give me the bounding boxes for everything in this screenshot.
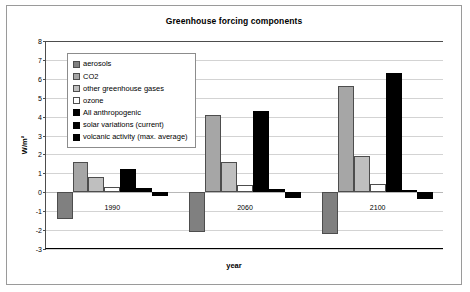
legend-swatch-icon <box>73 73 80 80</box>
gridline-8 <box>46 41 443 42</box>
bar <box>322 192 338 234</box>
y-tick-label: 6 <box>38 75 42 82</box>
legend-swatch-icon <box>73 85 80 92</box>
legend-label: CO2 <box>83 73 98 81</box>
legend-label: solar variations (current) <box>83 121 164 129</box>
y-tick-mark <box>43 98 46 99</box>
y-tick-label: -3 <box>36 246 42 253</box>
legend-item[interactable]: ozone <box>73 95 188 107</box>
bar <box>269 189 285 192</box>
plot-wrapper: -3-2-1012345678 199020602100 aerosolsCO2… <box>45 41 443 249</box>
bar <box>221 162 237 192</box>
legend-item[interactable]: All anthropogenic <box>73 107 188 119</box>
bar <box>237 185 253 193</box>
gridline-1 <box>46 173 443 174</box>
legend-swatch-icon <box>73 97 80 104</box>
legend-label: volcanic activity (max. average) <box>83 133 188 141</box>
bar <box>253 111 269 192</box>
y-axis-title: W/m² <box>20 136 29 154</box>
y-tick-label: 8 <box>38 38 42 45</box>
category-label-1990: 1990 <box>105 204 121 211</box>
legend-item[interactable]: aerosols <box>73 58 188 70</box>
bar <box>136 188 152 193</box>
gridline--1 <box>46 211 443 212</box>
y-tick-label: 1 <box>38 170 42 177</box>
bar <box>285 192 301 198</box>
bar <box>57 192 73 218</box>
y-tick-mark <box>43 192 46 193</box>
y-tick-mark <box>43 60 46 61</box>
y-tick-label: 0 <box>38 189 42 196</box>
category-label-2100: 2100 <box>370 204 386 211</box>
bar <box>189 192 205 232</box>
bar <box>104 187 120 192</box>
bar <box>386 73 402 192</box>
chart-frame: Greenhouse forcing components W/m² year … <box>6 5 462 285</box>
bar <box>417 192 433 199</box>
bar <box>354 156 370 192</box>
legend-label: other greenhouse gases <box>83 85 164 93</box>
legend-swatch-icon <box>73 61 80 68</box>
bar <box>88 177 104 192</box>
x-axis-title: year <box>7 261 461 270</box>
gridline-0 <box>46 192 443 193</box>
y-tick-mark <box>43 154 46 155</box>
y-tick-mark <box>43 249 46 250</box>
legend-item[interactable]: volcanic activity (max. average) <box>73 131 188 143</box>
gridline-2 <box>46 154 443 155</box>
legend-swatch-icon <box>73 109 80 116</box>
y-tick-mark <box>43 211 46 212</box>
category-label-2060: 2060 <box>237 204 253 211</box>
legend-label: aerosols <box>83 60 111 68</box>
gridline--3 <box>46 249 443 250</box>
bar <box>402 190 418 192</box>
legend-item[interactable]: solar variations (current) <box>73 119 188 131</box>
y-tick-mark <box>43 117 46 118</box>
y-tick-label: -1 <box>36 208 42 215</box>
bar <box>120 169 136 193</box>
legend-swatch-icon <box>73 134 80 141</box>
y-tick-label: 2 <box>38 151 42 158</box>
y-tick-label: 3 <box>38 132 42 139</box>
chart-legend: aerosolsCO2other greenhouse gasesozoneAl… <box>67 53 196 148</box>
y-tick-mark <box>43 230 46 231</box>
bar <box>152 192 168 196</box>
legend-item[interactable]: CO2 <box>73 70 188 82</box>
y-tick-label: 4 <box>38 113 42 120</box>
bar <box>338 86 354 192</box>
y-tick-mark <box>43 173 46 174</box>
bar <box>73 162 89 192</box>
legend-item[interactable]: other greenhouse gases <box>73 82 188 94</box>
legend-swatch-icon <box>73 122 80 129</box>
y-tick-label: -2 <box>36 227 42 234</box>
bar <box>205 115 221 193</box>
y-tick-label: 7 <box>38 56 42 63</box>
y-tick-mark <box>43 136 46 137</box>
y-tick-mark <box>43 79 46 80</box>
legend-label: ozone <box>83 97 103 105</box>
bar <box>370 184 386 192</box>
chart-title: Greenhouse forcing components <box>7 16 461 26</box>
legend-label: All anthropogenic <box>83 109 141 117</box>
gridline--2 <box>46 230 443 231</box>
y-tick-label: 5 <box>38 94 42 101</box>
y-tick-mark <box>43 41 46 42</box>
